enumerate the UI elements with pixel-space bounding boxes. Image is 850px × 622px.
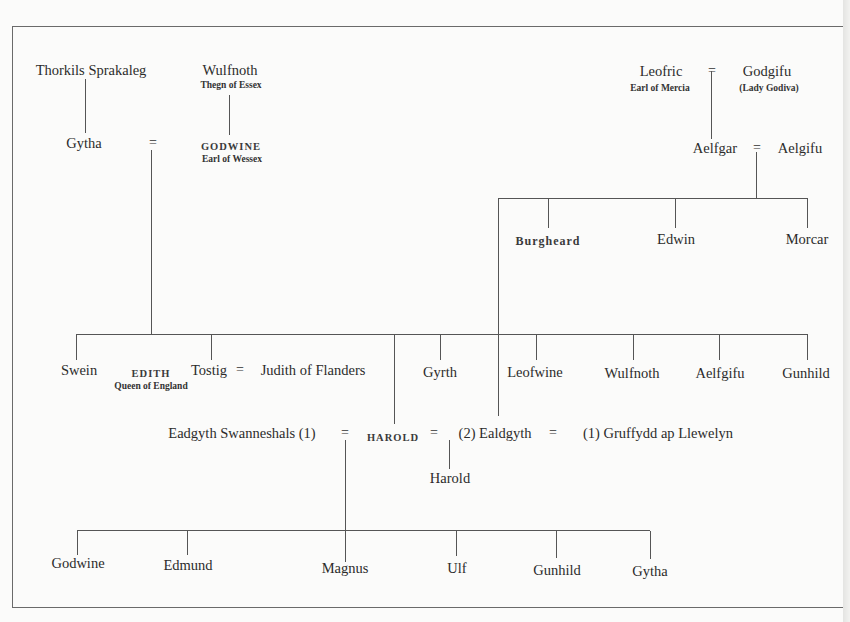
marriage-symbol: = (430, 425, 438, 441)
person-wulfnoth: Wulfnoth (605, 365, 660, 381)
person-wulfnoth-elder: Wulfnoth (203, 62, 258, 78)
diagram-frame (12, 26, 846, 608)
line-to-wulfnoth (633, 334, 634, 360)
line-to-edwin (675, 198, 676, 228)
line-to-tostig (211, 334, 212, 360)
person-gunhild: Gunhild (782, 365, 830, 381)
marriage-symbol: = (549, 425, 557, 441)
line-to-aelfgifu (719, 334, 720, 360)
person-eadgyth-swanneshals: Eadgyth Swanneshals (1) (168, 425, 315, 441)
person-harold-son: Harold (430, 470, 470, 486)
line-godwine-descent (151, 150, 152, 335)
person-gunhild-daughter: Gunhild (533, 562, 581, 578)
person-godwine-son: Godwine (51, 555, 104, 571)
line-to-leofwine (536, 334, 537, 360)
person-magnus: Magnus (322, 560, 369, 576)
person-godwine-earl: GODWINE (201, 139, 261, 155)
title-queen-of-england: Queen of England (114, 381, 187, 392)
line-to-edmund (187, 530, 188, 555)
title-thegn-of-essex: Thegn of Essex (200, 80, 261, 91)
person-leofric: Leofric (640, 63, 683, 79)
person-aelfgifu: Aelfgifu (695, 365, 744, 381)
line-aelfgar-descent (756, 152, 757, 199)
person-gyrth: Gyrth (423, 364, 457, 380)
line-aelfgar-children-bar (498, 198, 807, 199)
person-gruffydd-ap-llewelyn: (1) Gruffydd ap Llewelyn (583, 425, 733, 441)
line-harold-eadgyth-descent (345, 440, 346, 562)
marriage-symbol: = (236, 362, 244, 378)
line-to-morcar (807, 198, 808, 228)
line-to-godwine-son (77, 530, 78, 555)
person-swein: Swein (61, 362, 97, 378)
line-wulfnoth-godwine (229, 95, 230, 135)
line-to-harold-son (449, 440, 450, 469)
person-edwin: Edwin (657, 231, 695, 247)
person-godgifu: Godgifu (743, 63, 791, 79)
line-thorkils-gytha (85, 79, 86, 133)
marriage-symbol: = (753, 140, 761, 156)
person-ealdgyth: (2) Ealdgyth (459, 425, 532, 441)
line-to-gunhild (807, 334, 808, 360)
line-to-gyrth (440, 334, 441, 360)
title-lady-godiva: (Lady Godiva) (739, 83, 798, 94)
line-aelfgar-to-ealdgyth (498, 198, 499, 416)
person-leofwine: Leofwine (507, 364, 563, 380)
line-to-harold (394, 334, 395, 424)
person-edmund: Edmund (163, 557, 212, 573)
line-harold-children-bar (77, 530, 650, 531)
person-judith-of-flanders: Judith of Flanders (261, 362, 366, 378)
person-aelfgar: Aelfgar (693, 140, 737, 156)
person-tostig: Tostig (191, 362, 227, 378)
person-thorkils-sprakaleg: Thorkils Sprakaleg (36, 62, 147, 78)
person-morcar: Morcar (786, 231, 829, 247)
person-gytha-daughter: Gytha (632, 563, 667, 579)
marriage-symbol: = (708, 63, 716, 79)
person-edith: EDITH (132, 366, 171, 382)
person-aelgifu: Aelgifu (778, 140, 822, 156)
marriage-symbol: = (341, 425, 349, 441)
line-godwine-children-bar (76, 334, 807, 335)
line-to-burgheard (548, 198, 549, 228)
person-gytha: Gytha (66, 135, 101, 151)
line-to-gytha-daughter (650, 531, 651, 559)
marriage-symbol: = (149, 135, 157, 151)
line-leofric-aelfgar (711, 71, 712, 139)
person-ulf: Ulf (447, 560, 466, 576)
page-edge (843, 0, 850, 622)
line-to-gunhild-daughter (556, 531, 557, 558)
person-harold-king: HAROLD (367, 430, 419, 446)
title-earl-of-wessex: Earl of Wessex (202, 154, 262, 165)
title-earl-of-mercia: Earl of Mercia (630, 83, 689, 94)
line-to-ulf (456, 530, 457, 556)
person-burgheard: Burgheard (515, 233, 580, 249)
line-to-swein (76, 334, 77, 360)
